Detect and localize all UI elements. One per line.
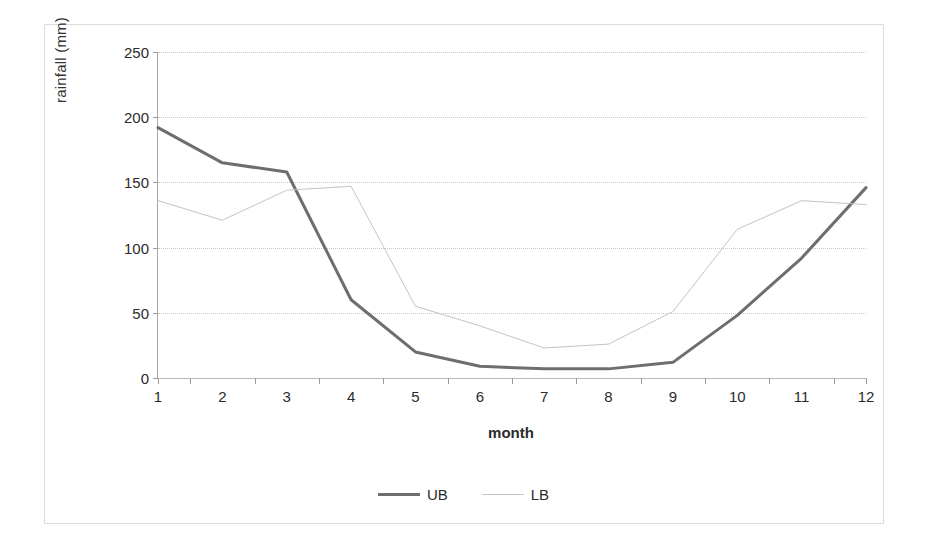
x-tick-label: 10 <box>729 388 746 405</box>
x-tick-mark <box>705 378 706 384</box>
y-tick-label: 50 <box>132 304 149 321</box>
x-tick-label: 1 <box>154 388 162 405</box>
legend-item-lb[interactable]: LB <box>482 486 549 503</box>
legend-item-ub[interactable]: UB <box>378 486 448 503</box>
y-tick-label: 100 <box>124 239 149 256</box>
legend-label: UB <box>427 486 448 503</box>
legend-swatch-icon <box>482 494 524 495</box>
x-tick-label: 6 <box>476 388 484 405</box>
x-tick-mark <box>866 378 867 384</box>
x-tick-mark <box>512 378 513 384</box>
y-tick-label: 200 <box>124 109 149 126</box>
series-lines <box>158 52 866 378</box>
x-tick-mark <box>576 378 577 384</box>
x-tick-label: 11 <box>794 388 810 405</box>
x-tick-mark <box>834 378 835 384</box>
x-tick-mark <box>641 378 642 384</box>
x-tick-label: 3 <box>283 388 291 405</box>
x-tick-mark <box>769 378 770 384</box>
x-tick-mark <box>255 378 256 384</box>
x-tick-label: 12 <box>858 388 875 405</box>
x-tick-mark <box>158 378 159 384</box>
y-axis-title: rainfall (mm) <box>52 0 74 140</box>
x-tick-label: 2 <box>218 388 226 405</box>
y-tick-label: 150 <box>124 174 149 191</box>
series-line-lb <box>158 186 866 348</box>
x-tick-mark <box>319 378 320 384</box>
y-tick-label: 250 <box>124 44 149 61</box>
series-line-ub <box>158 128 866 369</box>
x-tick-mark <box>448 378 449 384</box>
x-tick-label: 7 <box>540 388 548 405</box>
x-tick-mark <box>190 378 191 384</box>
x-tick-mark <box>383 378 384 384</box>
plot-area: 050100150200250 123456789101112 <box>157 52 866 379</box>
legend-swatch-icon <box>378 493 420 496</box>
y-tick-label: 0 <box>141 370 149 387</box>
x-tick-label: 4 <box>347 388 355 405</box>
chart-legend: UBLB <box>0 486 927 503</box>
rainfall-line-chart: rainfall (mm) 050100150200250 1234567891… <box>0 0 927 550</box>
x-tick-label: 9 <box>669 388 677 405</box>
x-tick-label: 5 <box>411 388 419 405</box>
x-tick-label: 8 <box>604 388 612 405</box>
x-axis-title: month <box>157 424 865 441</box>
legend-label: LB <box>531 486 549 503</box>
